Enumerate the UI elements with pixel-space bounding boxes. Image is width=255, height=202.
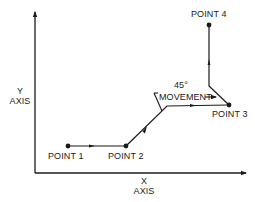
point-2-label: POINT 2 <box>108 151 144 161</box>
y-axis-label: Y AXIS <box>6 86 34 106</box>
diagram-canvas <box>0 0 255 202</box>
x-axis-label-line2: AXIS <box>124 186 164 196</box>
angle-label: 45° <box>174 80 188 90</box>
point-4-marker <box>207 23 212 28</box>
point-3-label: POINT 3 <box>212 109 248 119</box>
y-axis-label-line2: AXIS <box>6 96 34 106</box>
point-4-label: POINT 4 <box>191 9 227 19</box>
point-1-label: POINT 1 <box>48 151 84 161</box>
path-segment-1-2 <box>68 145 126 148</box>
x-axis-label-line1: X <box>124 176 164 186</box>
x-axis-label: X AXIS <box>124 176 164 196</box>
point-3-marker <box>227 103 232 108</box>
y-axis-label-line1: Y <box>6 86 34 96</box>
point-2-marker <box>124 144 129 149</box>
point-1-marker <box>66 144 71 149</box>
movement-label: MOVEMENT <box>159 92 212 102</box>
